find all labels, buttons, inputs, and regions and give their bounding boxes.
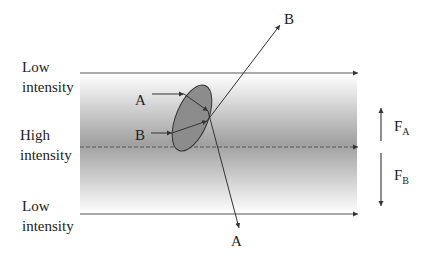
ray-a-out-label: A: [231, 233, 242, 249]
force-a-label: FA: [394, 118, 410, 137]
label-bottom-low-line1: Low: [22, 198, 50, 214]
beam-intensity-band: [80, 74, 357, 214]
label-top-low-line2: intensity: [22, 79, 74, 95]
label-top-low-line1: Low: [22, 59, 50, 75]
force-b-label: FB: [394, 167, 409, 186]
ray-a-in-label: A: [135, 92, 146, 108]
optical-trap-diagram: Low intensity High intensity Low intensi…: [0, 0, 433, 253]
label-high-line1: High: [20, 127, 51, 143]
label-bottom-low-line2: intensity: [22, 218, 74, 234]
ray-b-out-label: B: [284, 11, 294, 27]
label-high-line2: intensity: [20, 147, 72, 163]
ray-b-in-label: B: [135, 127, 145, 143]
